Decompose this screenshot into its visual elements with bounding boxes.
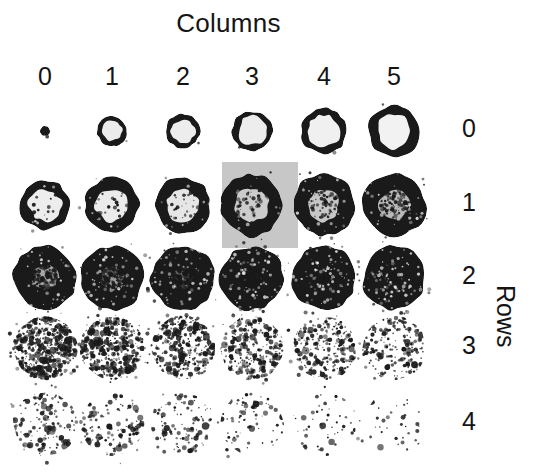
row-label-4: 4 [462, 407, 496, 436]
blob-cell-r0-c2 [156, 104, 210, 158]
blob-cell-r0-c4 [291, 98, 357, 164]
row-label-1: 1 [462, 188, 496, 217]
column-label-0: 0 [25, 62, 65, 91]
column-label-5: 5 [374, 62, 414, 91]
blob-grid-figure: Columns 012345 01234 Rows [0, 0, 543, 474]
column-label-2: 2 [163, 62, 203, 91]
blob-cell-r1-c0 [10, 170, 80, 240]
rows-axis-title: Rows [491, 285, 520, 348]
blob-cell-r0-c0 [30, 116, 60, 146]
columns-axis-title-text: Columns [176, 8, 281, 39]
blob-cell-r3-c5 [352, 306, 436, 390]
blob-cell-r1-c1 [75, 168, 149, 242]
column-label-3: 3 [232, 62, 272, 91]
blob-cell-r1-c5 [352, 163, 436, 247]
row-label-0: 0 [462, 114, 496, 143]
blob-cell-r0-c1 [87, 106, 137, 156]
blob-cell-r0-c5 [358, 95, 430, 167]
blob-cell-r0-c3 [222, 101, 282, 161]
column-label-4: 4 [304, 62, 344, 91]
columns-axis-title: Columns [0, 8, 543, 39]
blob-cell-r1-c3 [211, 164, 293, 246]
blob-cell-r4-c5 [352, 382, 436, 466]
column-label-1: 1 [92, 62, 132, 91]
blob-cell-r1-c2 [145, 167, 221, 243]
